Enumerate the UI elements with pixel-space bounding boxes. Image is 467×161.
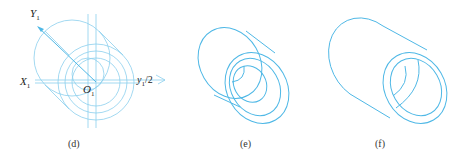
figure-canvas <box>0 0 467 161</box>
caption-e: (e) <box>240 138 251 149</box>
panel-e-drawing <box>186 16 302 135</box>
y1-axis-label: Y1 <box>30 8 40 22</box>
offset-y1-half-label: y1/2 <box>137 75 153 88</box>
x1-axis-label: X1 <box>20 76 30 90</box>
panel-d-drawing <box>34 14 165 128</box>
caption-d: (d) <box>68 138 80 149</box>
caption-f: (f) <box>375 138 385 149</box>
panel-f-drawing <box>329 18 460 135</box>
origin-o1-label: O1 <box>83 84 94 98</box>
